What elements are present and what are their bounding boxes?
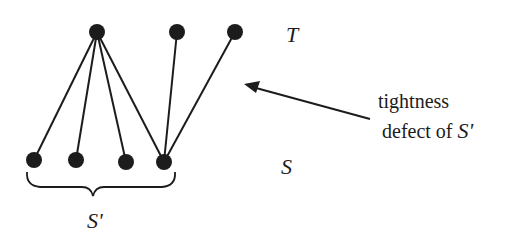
- edge-t1-s4: [97, 32, 164, 162]
- annotation-line2-prefix: defect of: [382, 120, 458, 142]
- nodes: [26, 24, 243, 170]
- annotation-arrow-shaft: [256, 88, 370, 119]
- label-S-prime: S': [87, 208, 103, 233]
- subset-brace: [27, 172, 175, 196]
- edge-t1-s1: [34, 32, 97, 160]
- graph-figure: T S S' tightness defect of S': [0, 0, 517, 234]
- edge-t1-s3: [97, 32, 126, 162]
- node-t1: [89, 24, 105, 40]
- node-t2: [169, 24, 185, 40]
- node-s1: [26, 152, 42, 168]
- annotation-line2: defect of S': [382, 118, 474, 143]
- node-s3: [118, 154, 134, 170]
- annotation-line1: tightness: [378, 90, 449, 113]
- node-s2: [68, 152, 84, 168]
- node-t3: [227, 24, 243, 40]
- arrowhead-icon: [244, 81, 260, 93]
- node-s4: [156, 154, 172, 170]
- annotation-line2-symbol: S': [458, 118, 474, 143]
- diagram-canvas: T S S' tightness defect of S': [0, 0, 517, 234]
- edges: [34, 32, 235, 162]
- label-S: S: [281, 154, 292, 179]
- label-T: T: [286, 22, 300, 47]
